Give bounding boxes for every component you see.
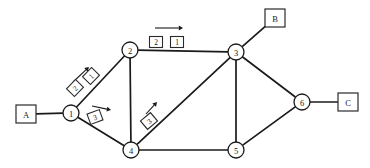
- network-node-6[interactable]: 6: [294, 94, 310, 110]
- arrow-2to3-icon: [155, 26, 183, 31]
- node-label: 6: [300, 98, 304, 108]
- terminal-B[interactable]: B: [265, 9, 285, 27]
- packet-label: 1: [175, 38, 179, 47]
- network-node-3[interactable]: 3: [228, 44, 244, 60]
- node-label: 1: [69, 109, 73, 119]
- network-node-5[interactable]: 5: [228, 142, 244, 158]
- packet-p-2to3-a: 2: [150, 37, 163, 48]
- packet-p-1to2-a: 2: [67, 80, 84, 97]
- terminal-label: C: [345, 98, 351, 108]
- terminal-C[interactable]: C: [338, 93, 358, 111]
- network-link-n2-n4: [130, 57, 131, 142]
- packet-p-1to4: 3: [87, 110, 103, 125]
- network-link-n1-n2: [76, 55, 125, 107]
- network-link-n1-n4: [77, 117, 124, 146]
- network-link-n5-n6: [242, 106, 296, 145]
- terminal-A[interactable]: A: [16, 105, 36, 123]
- network-link-tA-n1: [36, 113, 64, 114]
- network-canvas: 123456 ABC 213321: [0, 0, 370, 168]
- terminal-label: A: [23, 110, 30, 120]
- terminal-label: B: [272, 14, 278, 24]
- node-layer: 123456: [63, 42, 310, 158]
- network-diagram: 123456 ABC 213321: [0, 0, 370, 168]
- arrow-4to3-icon: [146, 102, 157, 114]
- node-label: 2: [128, 46, 132, 56]
- network-link-n3-n6: [242, 57, 296, 98]
- node-label: 5: [234, 146, 238, 156]
- network-node-2[interactable]: 2: [122, 42, 138, 58]
- node-label: 3: [234, 48, 238, 58]
- network-node-4[interactable]: 4: [123, 142, 139, 158]
- network-node-1[interactable]: 1: [63, 105, 79, 121]
- packet-p-2to3-b: 1: [171, 37, 184, 48]
- network-link-n2-n3: [137, 50, 228, 52]
- packet-label: 2: [154, 38, 158, 47]
- network-link-n3-n4: [136, 57, 230, 145]
- network-link-n3-tB: [242, 27, 265, 47]
